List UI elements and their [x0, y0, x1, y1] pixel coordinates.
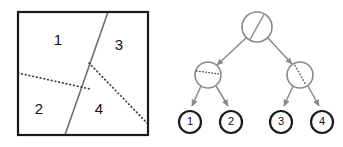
tree-leaf-4[interactable]: 4: [311, 111, 333, 133]
region-label-1: 1: [54, 31, 62, 48]
region-label-2: 2: [35, 100, 43, 117]
edge-internal-right-to-leaf-3: [284, 86, 293, 106]
leaf-1-label: 1: [187, 115, 193, 127]
partition-panel: 1 2 3 4: [18, 12, 148, 135]
tree-leaf-2[interactable]: 2: [220, 111, 242, 133]
edge-internal-left-to-leaf-2: [216, 86, 228, 106]
edge-root-to-internal-left: [217, 38, 246, 65]
tree-panel: 1 2 3 4: [179, 12, 333, 133]
internal-left-node-circle: [195, 62, 221, 88]
tree-leaf-3[interactable]: 3: [270, 111, 292, 133]
tree-node-internal-left[interactable]: [195, 62, 221, 88]
tree-leaf-1[interactable]: 1: [179, 111, 201, 133]
leaf-3-label: 3: [278, 115, 284, 127]
tree-node-root[interactable]: [242, 12, 272, 42]
tree-node-internal-right[interactable]: [287, 62, 313, 88]
edge-root-to-internal-right: [268, 38, 292, 64]
region-label-4: 4: [95, 100, 103, 117]
edge-internal-left-to-leaf-1: [192, 86, 201, 106]
edge-internal-right-to-leaf-4: [308, 86, 319, 106]
region-label-3: 3: [115, 36, 123, 53]
leaf-2-label: 2: [228, 115, 234, 127]
leaf-4-label: 4: [319, 115, 325, 127]
decision-tree-partition-figure: 1 2 3 4: [0, 0, 343, 147]
